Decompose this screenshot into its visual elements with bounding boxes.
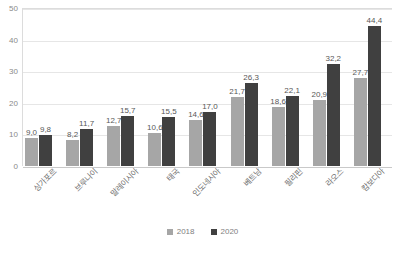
legend-label: 2018 (177, 228, 195, 236)
bar-value-label: 9,8 (40, 126, 51, 134)
y-axis-tick-label: 50 (9, 5, 18, 13)
bar-value-label: 44,4 (367, 17, 383, 25)
bar-2020[interactable]: 9,8 (39, 135, 52, 166)
bar-group: 27,744,4 (351, 8, 392, 166)
y-axis-tick-label: 30 (9, 68, 18, 76)
x-axis-tick-label: 캄보디아 (362, 168, 387, 193)
x-axis-tick-label: 브루나이 (74, 168, 99, 193)
bar-2018[interactable]: 9,0 (25, 138, 38, 166)
bar-group: 9,09,8 (22, 8, 63, 166)
x-axis-tick-label: 필리핀 (284, 168, 305, 189)
bar-value-label: 9,0 (26, 129, 37, 137)
bar-group: 10,615,5 (145, 8, 186, 166)
bar-value-label: 15,7 (120, 107, 136, 115)
x-axis-tick-label: 싱가포르 (33, 168, 58, 193)
bar-group: 20,932,2 (310, 8, 351, 166)
bar-value-label: 10,6 (147, 124, 163, 132)
bar-value-label: 11,7 (79, 120, 94, 128)
bar-2020[interactable]: 17,0 (203, 112, 216, 166)
legend-swatch-icon (167, 229, 173, 235)
x-axis-tick-label: 태국 (166, 168, 182, 184)
x-axis-tick-label: 인도네시아 (192, 168, 222, 198)
bar-2018[interactable]: 20,9 (313, 100, 326, 166)
bar-value-label: 22,1 (284, 87, 300, 95)
bar-2020[interactable]: 44,4 (368, 26, 381, 166)
x-axis-tick-label: 베트남 (243, 168, 264, 189)
bar-2020[interactable]: 22,1 (286, 96, 299, 166)
bar-value-label: 26,3 (243, 74, 259, 82)
y-axis-tick-label: 10 (9, 131, 18, 139)
bar-value-label: 17,0 (202, 103, 218, 111)
bar-chart: 01020304050 9,09,88,211,712,715,710,615,… (0, 0, 405, 257)
bar-group: 8,211,7 (63, 8, 104, 166)
bar-2020[interactable]: 32,2 (327, 64, 340, 166)
bar-value-label: 14,6 (188, 111, 204, 119)
bar-value-label: 32,2 (325, 55, 341, 63)
bar-2018[interactable]: 14,6 (189, 120, 202, 166)
bar-value-label: 27,7 (353, 69, 369, 77)
x-axis-tick-label: 라오스 (325, 168, 346, 189)
bar-2018[interactable]: 27,7 (354, 78, 367, 166)
bar-value-label: 15,5 (161, 108, 177, 116)
bar-value-label: 20,9 (311, 91, 327, 99)
bar-group: 12,715,7 (104, 8, 145, 166)
legend-swatch-icon (211, 229, 217, 235)
bars-layer: 9,09,88,211,712,715,710,615,514,617,021,… (22, 8, 392, 166)
bar-value-label: 8,2 (67, 131, 78, 139)
bar-2020[interactable]: 15,5 (162, 117, 175, 166)
x-axis-labels: 싱가포르브루나이말레이시아태국인도네시아베트남필리핀라오스캄보디아 (22, 168, 392, 216)
bar-group: 18,622,1 (269, 8, 310, 166)
y-axis-tick-label: 0 (14, 163, 18, 171)
chart-legend: 2018 2020 (0, 228, 405, 236)
bar-2018[interactable]: 18,6 (272, 107, 285, 166)
bar-value-label: 18,6 (270, 98, 286, 106)
legend-item[interactable]: 2018 (167, 228, 195, 236)
bar-2020[interactable]: 15,7 (121, 116, 134, 166)
bar-2018[interactable]: 10,6 (148, 133, 161, 166)
bar-2020[interactable]: 11,7 (80, 129, 93, 166)
bar-value-label: 21,7 (229, 88, 245, 96)
legend-item[interactable]: 2020 (211, 228, 239, 236)
bar-2018[interactable]: 12,7 (107, 126, 120, 166)
x-axis-tick-label: 말레이시아 (110, 168, 140, 198)
y-axis-tick-label: 20 (9, 100, 18, 108)
bar-2018[interactable]: 21,7 (231, 97, 244, 166)
bar-value-label: 12,7 (106, 117, 122, 125)
bar-2020[interactable]: 26,3 (245, 83, 258, 166)
bar-group: 14,617,0 (186, 8, 227, 166)
bar-group: 21,726,3 (228, 8, 269, 166)
bar-2018[interactable]: 8,2 (66, 140, 79, 166)
legend-label: 2020 (221, 228, 239, 236)
y-axis-tick-label: 40 (9, 37, 18, 45)
